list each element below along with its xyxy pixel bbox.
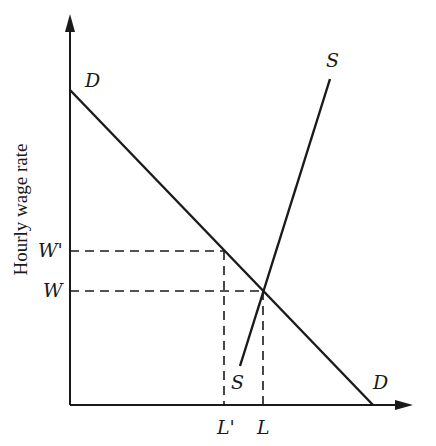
y-axis-title: Hourly wage rate [11,140,30,280]
demand-label-top: D [85,71,100,90]
supply-label-top: S [326,51,339,70]
demand-curve [70,90,373,405]
supply-curve [240,79,330,366]
x-axis-arrow-icon [395,400,413,410]
x-tick-l-prime: L' [217,418,235,437]
demand-label-bottom: D [373,373,388,392]
y-axis-arrow-icon [65,14,75,32]
y-tick-w-prime: W' [38,241,63,260]
supply-label-bottom: S [231,373,244,392]
y-tick-w: W [43,281,63,300]
labor-market-diagram: D D S S W' W L' L Hourly wage rate [0,0,436,446]
x-tick-l: L [257,418,270,437]
diagram-canvas [0,0,436,446]
